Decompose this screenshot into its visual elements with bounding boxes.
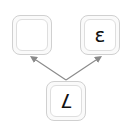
key-left	[12, 15, 52, 55]
key-right: ε	[80, 15, 120, 55]
key-bottom-label: 7	[60, 89, 73, 113]
key-right-label: ε	[95, 23, 106, 47]
arrow-to-right	[66, 58, 99, 80]
key-bottom-face: 7	[50, 85, 82, 117]
arrow-to-left	[33, 58, 66, 80]
key-right-face: ε	[84, 19, 116, 51]
key-left-face	[16, 19, 48, 51]
key-bottom: 7	[46, 81, 86, 121]
